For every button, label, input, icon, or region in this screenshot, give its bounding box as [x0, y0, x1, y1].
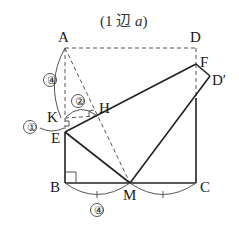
ratio-BM: ④: [94, 204, 104, 216]
label-F: F: [200, 54, 208, 70]
label-H: H: [99, 100, 110, 116]
right-angle-B-icon: [65, 172, 76, 183]
label-A: A: [58, 29, 69, 45]
label-C: C: [200, 179, 210, 195]
label-D-prime: D′: [212, 72, 226, 88]
label-B: B: [50, 179, 60, 195]
label-E: E: [51, 130, 60, 146]
label-D: D: [190, 29, 201, 45]
geometry-diagram: (1 辺 a) ④ ① ② ④ A D F D′ K H E B M C: [0, 0, 239, 232]
title: (1 辺 a): [100, 13, 148, 30]
ratio-AK: ④: [47, 74, 57, 86]
right-angle-K-icon: [65, 121, 69, 126]
ratio-KH: ②: [75, 95, 85, 107]
label-K: K: [47, 109, 58, 125]
ratio-KE: ①: [27, 121, 37, 133]
segment-EM: [65, 132, 130, 183]
label-M: M: [123, 187, 136, 203]
